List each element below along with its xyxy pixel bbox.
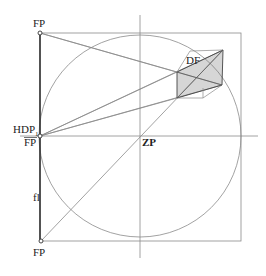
label-df: DF (186, 54, 200, 66)
label-zp: ZP (142, 136, 156, 148)
label-fp-mid: FP (24, 136, 36, 148)
point-fp-bottom (39, 239, 43, 243)
point-fp-top (38, 31, 42, 35)
label-fp-bottom: FP (33, 246, 45, 258)
ray-fp-top-to-object-2 (40, 33, 177, 72)
diagram-canvas: FP HDP1 FP ZP fl FP DF (0, 0, 266, 276)
label-fl: fl (33, 191, 40, 203)
point-hdp1 (38, 134, 42, 138)
label-fp-top: FP (33, 17, 45, 29)
perspective-diagram: FP HDP1 FP ZP fl FP DF (0, 0, 266, 276)
